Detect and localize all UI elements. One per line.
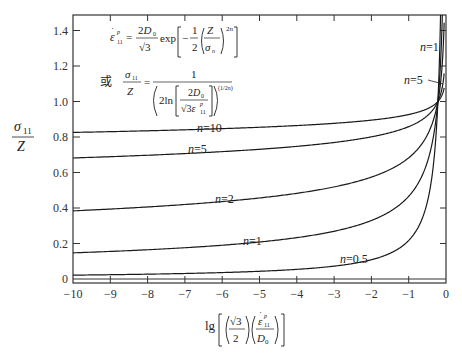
y-tick-label: 1.4 xyxy=(53,24,68,38)
y-tick-label: 0 xyxy=(62,272,68,286)
svg-text:σ: σ xyxy=(14,119,22,134)
svg-text:√3ε: √3ε xyxy=(181,103,196,114)
svg-text:2n: 2n xyxy=(226,25,234,33)
svg-text:11: 11 xyxy=(132,75,138,81)
label-n10: n=10 xyxy=(197,121,222,135)
y-tick-label: 0.6 xyxy=(53,166,68,180)
svg-text:1: 1 xyxy=(191,68,197,80)
svg-text:2ln: 2ln xyxy=(159,94,174,106)
svg-text:11: 11 xyxy=(264,322,270,328)
label-n2: n=2 xyxy=(215,192,234,206)
chart: −10−9−8−7−6−5−4−3−2−10 00.20.40.60.81.01… xyxy=(0,0,462,359)
svg-text:(1/2n): (1/2n) xyxy=(218,85,233,92)
svg-text:2: 2 xyxy=(192,41,198,53)
x-tick-label: −1 xyxy=(402,287,415,301)
svg-text:D: D xyxy=(256,332,265,344)
y-tick-label: 0.4 xyxy=(53,201,68,215)
svg-text:p: p xyxy=(116,29,120,35)
svg-text:=: = xyxy=(126,31,132,43)
label-n5-right: n=5 xyxy=(404,73,423,87)
svg-text:·: · xyxy=(259,307,262,317)
x-tick-label: −8 xyxy=(141,287,154,301)
or-char: 或 xyxy=(100,75,112,89)
svg-text:n: n xyxy=(212,48,215,54)
svg-text:Z: Z xyxy=(17,139,25,154)
svg-text:2: 2 xyxy=(233,332,239,344)
x-tick-label: −3 xyxy=(328,287,341,301)
x-tick-label: −7 xyxy=(179,287,192,301)
svg-text:√3: √3 xyxy=(230,315,242,327)
y-tick-label: 1.0 xyxy=(53,95,68,109)
x-axis-label: lg √3 2 ε · p 11 D 0 xyxy=(205,307,284,346)
y-tick-label: 0.2 xyxy=(53,237,68,251)
x-axis-ticks: −10−9−8−7−6−5−4−3−2−10 xyxy=(64,15,449,301)
svg-text:p: p xyxy=(263,313,267,319)
svg-text:√3: √3 xyxy=(139,41,151,53)
y-tick-label: 1.2 xyxy=(53,59,68,73)
curve-n-2 xyxy=(73,23,444,211)
x-tick-label: −4 xyxy=(290,287,303,301)
svg-text:p: p xyxy=(199,101,203,107)
x-tick-label: −9 xyxy=(104,287,117,301)
label-n1-mid: n=1 xyxy=(243,234,262,248)
svg-text:σ: σ xyxy=(205,41,211,53)
y-tick-label: 0.8 xyxy=(53,130,68,144)
x-tick-label: −2 xyxy=(365,287,378,301)
svg-text:0: 0 xyxy=(153,31,156,37)
svg-text:1: 1 xyxy=(192,24,198,36)
x-tick-label: −10 xyxy=(64,287,83,301)
svg-text:2D: 2D xyxy=(138,24,152,36)
svg-text:·: · xyxy=(111,23,114,33)
svg-text:lg: lg xyxy=(205,318,216,333)
x-tick-label: 0 xyxy=(443,287,449,301)
y-axis-label: σ 11 Z xyxy=(12,119,34,154)
x-tick-label: −5 xyxy=(253,287,266,301)
label-n05: n=0.5 xyxy=(340,252,368,266)
svg-text:0: 0 xyxy=(201,93,204,99)
svg-text:11: 11 xyxy=(200,109,206,115)
svg-text:0: 0 xyxy=(265,338,269,346)
svg-text:11: 11 xyxy=(23,126,32,136)
svg-text:Z: Z xyxy=(127,85,134,97)
label-n1-right: n=1 xyxy=(420,40,439,54)
label-n5-mid: n=5 xyxy=(188,142,207,156)
formula-annotation: ε · p 11 = 2D 0 √3 exp − 1 2 Z σ n 2n 或 … xyxy=(100,23,237,116)
svg-text:−: − xyxy=(182,32,188,44)
svg-text:2D: 2D xyxy=(188,87,201,98)
svg-text:11: 11 xyxy=(117,39,123,45)
x-tick-label: −6 xyxy=(216,287,229,301)
svg-text:σ: σ xyxy=(125,68,131,80)
svg-text:Z: Z xyxy=(207,24,214,36)
svg-text:exp: exp xyxy=(160,32,176,44)
svg-text:=: = xyxy=(144,76,150,88)
